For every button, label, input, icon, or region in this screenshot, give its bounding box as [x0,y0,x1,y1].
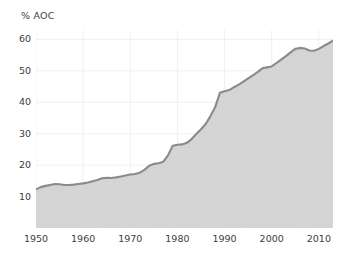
x-tick-label: 2010 [307,234,331,244]
x-axis-tick-labels: 1950196019701980199020002010 [0,0,347,258]
x-tick-label: 1960 [71,234,95,244]
x-tick-label: 2000 [260,234,284,244]
x-tick-label: 1990 [212,234,236,244]
x-tick-label: 1970 [118,234,142,244]
x-tick-label: 1950 [24,234,48,244]
chart-container: % AOC 102030405060 195019601970198019902… [0,0,347,258]
x-tick-label: 1980 [165,234,189,244]
